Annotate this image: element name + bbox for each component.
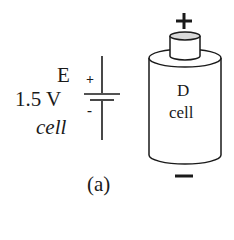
symbol-plus-sign: + xyxy=(86,72,94,88)
symbol-minus-sign: - xyxy=(87,102,92,119)
battery-terminal-cap xyxy=(170,32,200,40)
cell-symbol xyxy=(84,56,120,140)
label-cell-type: cell xyxy=(36,115,66,140)
label-voltage: 1.5 V xyxy=(15,87,61,112)
figure-caption: (a) xyxy=(87,172,110,197)
label-e: E xyxy=(57,63,70,88)
battery-label-cell: cell xyxy=(169,103,194,123)
battery-label-d: D xyxy=(177,81,189,101)
